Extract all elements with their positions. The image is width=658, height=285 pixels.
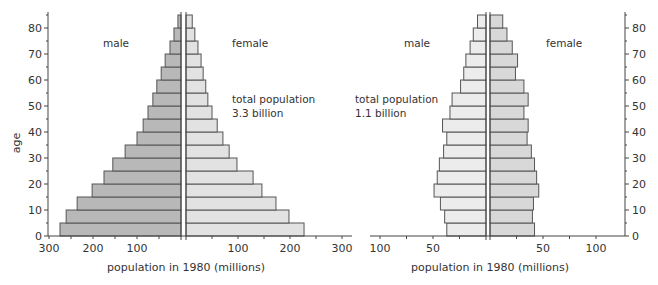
y-tick-left: 10: [28, 204, 42, 217]
right-total-value: 1.1 billion: [355, 107, 406, 119]
x-tick-right-female: 100: [586, 242, 607, 255]
y-tick-left: 80: [28, 22, 42, 35]
bar-female-50: [490, 93, 528, 106]
bar-female-30: [490, 145, 531, 158]
y-tick-right: 20: [632, 178, 646, 191]
bar-male-40: [143, 119, 181, 132]
bar-male-70: [470, 41, 486, 54]
y-tick-right: 80: [632, 22, 646, 35]
bar-female-5: [490, 210, 532, 223]
bar-female-20: [186, 171, 253, 184]
bar-male-40: [443, 119, 486, 132]
bar-male-80: [478, 15, 486, 28]
right-total-label: total population: [355, 93, 438, 105]
bar-male-60: [464, 67, 486, 80]
bar-female-40: [186, 119, 217, 132]
bar-male-55: [157, 80, 181, 93]
right-x-axis-title: population in 1980 (millions): [411, 261, 569, 274]
bar-male-60: [161, 67, 181, 80]
bar-female-55: [490, 80, 524, 93]
bar-male-20: [104, 171, 181, 184]
bar-male-70: [170, 41, 181, 54]
right-female-label: female: [546, 37, 582, 49]
bar-female-35: [490, 132, 527, 145]
bar-male-65: [466, 54, 486, 67]
bar-male-35: [447, 132, 486, 145]
bar-female-30: [186, 145, 229, 158]
bar-female-15: [490, 184, 539, 197]
bar-male-15: [434, 184, 486, 197]
bar-female-80: [490, 15, 503, 28]
bar-male-75: [174, 28, 181, 41]
y-tick-right: 30: [632, 152, 646, 165]
bar-female-25: [186, 158, 237, 171]
bar-female-0: [186, 223, 304, 236]
left-female-label: female: [232, 37, 268, 49]
x-tick-right-male: 50: [426, 242, 440, 255]
bar-male-20: [437, 171, 486, 184]
bar-male-25: [113, 158, 181, 171]
bar-male-0: [447, 223, 486, 236]
bar-male-75: [473, 28, 486, 41]
y-tick-right: 60: [632, 74, 646, 87]
y-tick-right: 70: [632, 48, 646, 61]
bar-female-80: [186, 15, 192, 28]
y-tick-left: 40: [28, 126, 42, 139]
bar-female-70: [490, 41, 512, 54]
left-x-axis-title: population in 1980 (millions): [107, 261, 265, 274]
y-tick-right: 0: [632, 230, 639, 243]
bar-female-10: [186, 197, 276, 210]
y-tick-right: 10: [632, 204, 646, 217]
bar-male-10: [77, 197, 181, 210]
left-male-label: male: [103, 37, 129, 49]
bar-male-35: [137, 132, 181, 145]
bar-female-20: [490, 171, 537, 184]
bar-female-60: [186, 67, 203, 80]
bar-female-70: [186, 41, 198, 54]
bar-male-45: [450, 106, 486, 119]
bar-male-25: [439, 158, 486, 171]
bar-female-55: [186, 80, 206, 93]
bar-female-40: [490, 119, 528, 132]
x-tick-left-male: 100: [127, 242, 148, 255]
y-tick-left: 30: [28, 152, 42, 165]
x-tick-right-male: 100: [370, 242, 391, 255]
bar-male-15: [92, 184, 181, 197]
x-tick-left-female: 300: [332, 242, 353, 255]
bar-male-30: [125, 145, 181, 158]
left-total-value: 3.3 billion: [232, 107, 283, 119]
x-tick-left-female: 200: [280, 242, 301, 255]
y-tick-left: 20: [28, 178, 42, 191]
bar-female-45: [186, 106, 212, 119]
y-tick-right: 50: [632, 100, 646, 113]
bar-male-5: [66, 210, 181, 223]
right-pyramid-bars: [434, 12, 539, 240]
x-tick-right-female: 50: [536, 242, 550, 255]
bar-male-55: [461, 80, 486, 93]
bar-male-30: [444, 145, 486, 158]
x-tick-left-female: 100: [228, 242, 249, 255]
bar-male-50: [153, 93, 181, 106]
bar-female-15: [186, 184, 262, 197]
bar-female-35: [186, 132, 223, 145]
bar-female-75: [490, 28, 507, 41]
bar-female-10: [490, 197, 533, 210]
bar-male-10: [440, 197, 486, 210]
y-tick-left: 70: [28, 48, 42, 61]
bar-female-65: [490, 54, 518, 67]
bar-female-50: [186, 93, 208, 106]
bar-male-5: [445, 210, 486, 223]
y-tick-left: 60: [28, 74, 42, 87]
bar-female-45: [490, 106, 524, 119]
x-tick-left-male: 300: [39, 242, 60, 255]
y-axis-title: age: [10, 133, 23, 154]
bar-male-50: [452, 93, 486, 106]
x-tick-left-male: 200: [83, 242, 104, 255]
y-tick-left: 50: [28, 100, 42, 113]
left-total-label: total population: [232, 93, 315, 105]
bar-female-25: [490, 158, 535, 171]
bar-male-45: [148, 106, 181, 119]
bar-female-60: [490, 67, 515, 80]
bar-male-65: [165, 54, 181, 67]
bar-male-0: [60, 223, 181, 236]
